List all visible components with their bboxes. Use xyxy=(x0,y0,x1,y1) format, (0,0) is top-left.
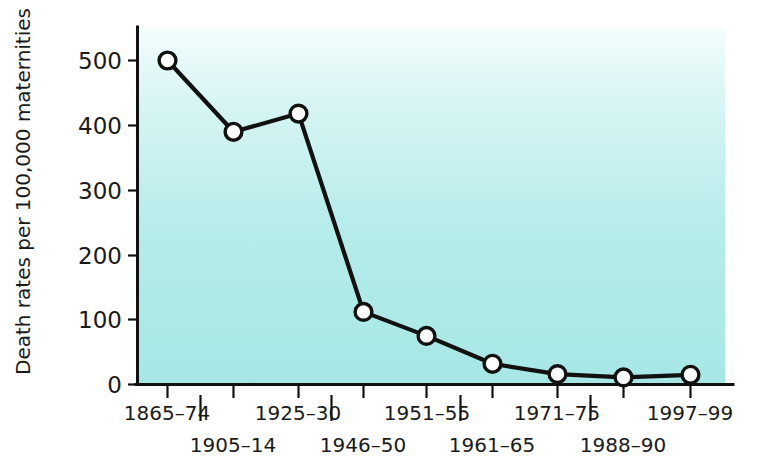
x-tick-label-1988-90: 1988–90 xyxy=(580,433,666,457)
data-point-marker xyxy=(549,366,566,383)
y-tick-label-500: 500 xyxy=(78,48,122,74)
x-tick-label-1865-74: 1865–74 xyxy=(124,401,210,425)
y-tick-marks xyxy=(128,61,137,385)
data-point-marker xyxy=(290,105,307,122)
y-axis-title: Death rates per 100,000 maternities xyxy=(11,8,35,375)
x-tick-label-1961-65: 1961–65 xyxy=(449,433,535,457)
x-tick-marks xyxy=(168,385,691,398)
x-tick-label-1951-55: 1951–55 xyxy=(384,401,470,425)
data-point-marker xyxy=(225,123,242,140)
data-point-marker xyxy=(682,366,699,383)
x-tick-label-1946-50: 1946–50 xyxy=(320,433,406,457)
x-tick-label-1971-75: 1971–75 xyxy=(514,401,600,425)
data-point-marker xyxy=(355,304,372,321)
line-chart: 500 400 300 200 100 0 Death rates per 10… xyxy=(0,0,767,471)
y-tick-label-400: 400 xyxy=(78,113,122,139)
x-tick-label-1925-30: 1925–30 xyxy=(255,401,341,425)
data-point-marker xyxy=(484,355,501,372)
data-point-marker xyxy=(418,328,435,345)
y-tick-label-300: 300 xyxy=(78,178,122,204)
x-tick-label-1905-14: 1905–14 xyxy=(190,433,276,457)
x-tick-label-1997-99: 1997–99 xyxy=(647,401,733,425)
y-tick-label-0: 0 xyxy=(107,372,122,398)
data-point-marker xyxy=(159,52,176,69)
chart-figure: 500 400 300 200 100 0 Death rates per 10… xyxy=(0,0,767,471)
data-point-marker xyxy=(615,369,632,386)
y-tick-label-200: 200 xyxy=(78,243,122,269)
y-tick-label-100: 100 xyxy=(78,307,122,333)
